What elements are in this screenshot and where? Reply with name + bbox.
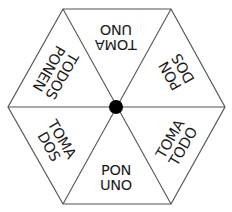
face-label-line: PON: [101, 163, 131, 178]
face-label-top: TOMA UNO: [76, 20, 156, 54]
face-label-line: UNO: [100, 22, 132, 37]
center-dot: [109, 100, 123, 114]
face-label-line: UNO: [100, 178, 132, 193]
spinning-top-hexagon: PON UNO TOMA TODO PON DOS TOMA UNO TODOS…: [0, 0, 232, 212]
face-label-line: TOMA: [95, 37, 137, 52]
